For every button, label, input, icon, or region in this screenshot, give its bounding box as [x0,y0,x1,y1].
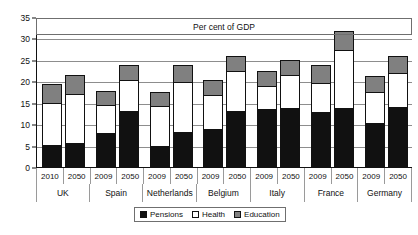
bar-segment-pensions [311,112,331,167]
bar-segment-health [42,103,62,145]
stacked-bar[interactable] [311,65,331,167]
bar-segment-education [173,65,193,82]
bar-segment-health [334,50,354,108]
x-axis-country-label: Spain [90,184,144,202]
bar-segment-pensions [42,145,62,167]
legend-label: Education [244,210,280,219]
stacked-bar[interactable] [42,84,62,167]
x-axis-year-label: 2050 [64,168,91,184]
x-axis-year-label: 2050 [171,168,198,184]
legend-item[interactable]: Education [234,210,280,219]
chart-legend: PensionsHealthEducation [134,207,286,222]
legend-item[interactable]: Health [192,210,225,219]
x-axis-year-label: 2050 [117,168,144,184]
bar-segment-education [96,91,116,105]
bar-series-container [37,18,412,167]
x-axis-year-row: 2010205020092050200920502009205020092050… [36,168,412,184]
bar-segment-pensions [203,129,223,167]
x-axis-year-label: 2009 [91,168,118,184]
legend-swatch-health-icon [192,211,199,218]
stacked-bar[interactable] [150,92,170,167]
y-axis-tick-label: 35 [21,13,30,23]
legend-item[interactable]: Pensions [140,210,183,219]
bar-segment-pensions [257,109,277,167]
x-axis-country-label: Netherlands [143,184,197,202]
bar-segment-health [280,75,300,108]
x-axis-year-label: 2009 [305,168,332,184]
x-axis-year-label: 2009 [198,168,225,184]
bar-segment-health [150,106,170,145]
bar-segment-education [150,92,170,107]
stacked-bar[interactable] [65,75,85,167]
y-axis-tick-label: 20 [21,77,30,87]
x-axis-year-label: 2009 [251,168,278,184]
legend-label: Pensions [150,210,183,219]
bar-segment-health [311,83,331,113]
stacked-bar[interactable] [119,65,139,167]
plot-area [36,18,412,168]
bar-segment-pensions [334,108,354,167]
bar-segment-pensions [150,146,170,167]
stacked-bar[interactable] [226,56,246,167]
bar-segment-pensions [226,111,246,167]
bar-segment-education [280,60,300,75]
bar-group [306,18,360,167]
y-axis-tick-label: 15 [21,99,30,109]
x-axis: 2010205020092050200920502009205020092050… [36,168,412,202]
bar-group [252,18,306,167]
bar-segment-pensions [96,133,116,167]
bar-group [37,18,91,167]
bar-segment-health [173,82,193,132]
stacked-bar[interactable] [365,76,385,167]
bar-segment-education [203,80,223,95]
x-axis-country-label: Italy [251,184,305,202]
bar-segment-pensions [119,111,139,167]
bar-segment-pensions [65,143,85,167]
x-axis-year-label: 2009 [144,168,171,184]
bar-segment-pensions [173,132,193,167]
y-axis-tick-label: 25 [21,56,30,66]
bar-segment-education [42,84,62,102]
x-axis-country-label: Belgium [197,184,251,202]
x-axis-year-label: 2009 [358,168,385,184]
bar-segment-health [365,92,385,123]
x-axis-year-label: 2050 [278,168,305,184]
y-axis-tick-label: 30 [21,34,30,44]
bar-segment-education [257,71,277,86]
bar-group [144,18,198,167]
bar-segment-education [119,65,139,80]
x-axis-year-label: 2050 [332,168,359,184]
stacked-bar[interactable] [280,60,300,167]
stacked-bar[interactable] [96,91,116,167]
stacked-bar[interactable] [257,71,277,167]
bar-segment-health [65,94,85,144]
bar-group [91,18,145,167]
x-axis-year-label: 2050 [385,168,412,184]
stacked-bar[interactable] [173,65,193,167]
bar-segment-health [119,80,139,111]
x-axis-year-label: 2010 [36,168,64,184]
stacked-bar[interactable] [203,80,223,167]
x-axis-year-label: 2050 [224,168,251,184]
bar-segment-pensions [280,108,300,167]
bar-segment-education [388,56,408,72]
bar-group [359,18,413,167]
bar-segment-health [257,86,277,109]
bar-segment-education [311,65,331,83]
y-axis-tick-label: 5 [25,142,30,152]
bar-segment-pensions [388,107,408,167]
bar-segment-health [96,105,116,132]
y-axis-tick-label: 0 [25,163,30,173]
chart-figure: 05101520253035 Per cent of GDP 201020502… [0,0,418,235]
chart-title: Per cent of GDP [189,22,259,32]
bar-segment-education [365,76,385,92]
bar-group [198,18,252,167]
x-axis-country-label: UK [36,184,90,202]
stacked-bar[interactable] [388,56,408,167]
bar-segment-pensions [365,123,385,167]
legend-label: Health [202,210,225,219]
stacked-bar[interactable] [334,31,354,167]
y-axis: 05101520253035 [0,18,36,168]
x-axis-country-label: France [305,184,359,202]
bar-segment-health [388,73,408,107]
